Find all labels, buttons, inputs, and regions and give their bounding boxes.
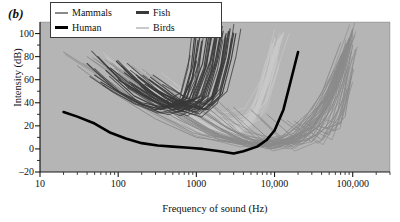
x-tick-label: 100,000 [336, 178, 369, 189]
x-tick-label: 1000 [186, 178, 206, 189]
y-tick-label: 0 [8, 144, 34, 154]
legend-swatch-icon [55, 26, 68, 29]
legend-entry-birds: Birds [136, 22, 217, 33]
legend-entry-fish: Fish [136, 7, 217, 18]
x-tick-label: 10 [35, 178, 45, 189]
x-tick-label: 100 [111, 178, 126, 189]
legend-entry-mammals: Mammals [55, 7, 136, 18]
legend-label: Mammals [72, 7, 112, 18]
audiogram-figure: (b) –20020406080100 10100100010,000100,0… [0, 0, 400, 222]
legend-label: Birds [153, 22, 175, 33]
x-axis-title: Frequency of sound (Hz) [40, 203, 390, 214]
x-tick-label: 10,000 [261, 178, 289, 189]
y-axis-title: Intensity (dB) [12, 18, 23, 138]
x-axis-tick-labels: 10100100010,000100,000 [0, 178, 400, 194]
legend-label: Fish [153, 7, 170, 18]
legend-entry-human: Human [55, 22, 136, 33]
legend-swatch-icon [55, 12, 68, 14]
y-tick-label: –20 [8, 167, 34, 177]
legend-label: Human [72, 22, 101, 33]
legend-swatch-icon [136, 11, 149, 14]
legend-swatch-icon [136, 27, 149, 29]
legend: MammalsFishHumanBirds [50, 2, 222, 38]
